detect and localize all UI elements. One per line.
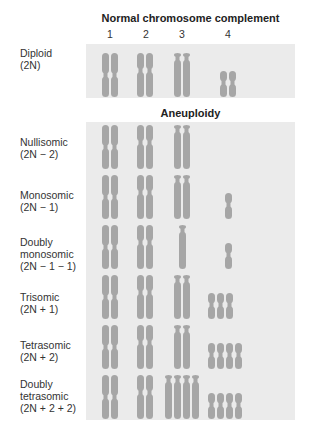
chromosome-icon xyxy=(111,53,118,97)
normal-complement-title: Normal chromosome complement xyxy=(86,12,295,24)
chromosome-icon xyxy=(174,125,181,169)
chromosome-icon xyxy=(217,293,224,319)
chromosome-icon xyxy=(111,225,118,269)
chromosome-icon xyxy=(137,275,144,319)
row-label-diploid: Diploid (2N) xyxy=(20,47,52,71)
chromosome-icon xyxy=(102,175,109,219)
chromosome-icon xyxy=(235,393,242,419)
chromosome-icon xyxy=(226,343,233,369)
chromosome-icon xyxy=(220,71,227,97)
row-label-monosomic: Monosomic (2N − 1) xyxy=(20,189,74,213)
chromosome-icon xyxy=(174,53,181,97)
karyotype-row-tetrasomic xyxy=(86,324,295,370)
chromosome-icon xyxy=(137,375,144,419)
chromosome-icon xyxy=(146,53,153,97)
karyotype-row-trisomic xyxy=(86,274,295,320)
chromosome-icon xyxy=(111,275,118,319)
diploid-panel xyxy=(86,44,295,98)
column-label-2: 2 xyxy=(136,28,156,40)
chromosome-icon xyxy=(137,125,144,169)
chromosome-icon xyxy=(174,175,181,219)
chromosome-icon xyxy=(183,375,190,419)
chromosome-icon xyxy=(102,375,109,419)
chromosome-icon xyxy=(192,375,199,419)
column-label-3: 3 xyxy=(172,28,192,40)
chromosome-icon xyxy=(229,71,236,97)
chromosome-icon xyxy=(137,53,144,97)
chromosome-icon xyxy=(146,225,153,269)
aneuploidy-panel xyxy=(86,122,295,420)
chromosome-icon xyxy=(174,375,181,419)
chromosome-icon xyxy=(146,175,153,219)
chromosome-icon xyxy=(102,325,109,369)
chromosome-icon xyxy=(208,293,215,319)
chromosome-icon xyxy=(137,175,144,219)
chromosome-icon xyxy=(226,393,233,419)
chromosome-icon xyxy=(183,125,190,169)
chromosome-icon xyxy=(111,375,118,419)
row-label-nullisomic: Nullisomic (2N − 2) xyxy=(20,136,68,160)
aneuploidy-title: Aneuploidy xyxy=(86,107,295,119)
column-label-4: 4 xyxy=(218,28,238,40)
chromosome-icon xyxy=(111,125,118,169)
chromosome-icon xyxy=(111,175,118,219)
row-label-doubly-monosomic: Doubly monosomic (2N − 1 − 1) xyxy=(20,236,76,272)
row-label-trisomic: Trisomic (2N + 1) xyxy=(20,291,59,315)
chromosome-icon xyxy=(102,225,109,269)
chromosome-icon xyxy=(111,325,118,369)
chromosome-icon xyxy=(137,325,144,369)
chromosome-icon xyxy=(165,375,172,419)
chromosome-icon xyxy=(146,275,153,319)
chromosome-icon xyxy=(208,393,215,419)
chromosome-icon xyxy=(217,393,224,419)
chromosome-icon xyxy=(183,325,190,369)
chromosome-icon xyxy=(137,225,144,269)
row-label-tetrasomic: Tetrasomic (2N + 2) xyxy=(20,339,71,363)
karyotype-row-doubly-tetrasomic xyxy=(86,374,295,420)
row-label-doubly-tetrasomic: Doubly tetrasomic (2N + 2 + 2) xyxy=(20,378,76,414)
chromosome-icon xyxy=(235,343,242,369)
chromosome-icon xyxy=(174,325,181,369)
chromosome-icon xyxy=(183,53,190,97)
chromosome-icon xyxy=(174,275,181,319)
chromosome-icon xyxy=(225,193,232,219)
chromosome-icon xyxy=(183,175,190,219)
chromosome-icon xyxy=(102,53,109,97)
chromosome-icon xyxy=(146,125,153,169)
chromosome-icon xyxy=(217,343,224,369)
chromosome-icon xyxy=(146,375,153,419)
chromosome-icon xyxy=(226,293,233,319)
chromosome-icon xyxy=(179,225,186,269)
karyotype-row-diploid xyxy=(86,44,295,98)
chromosome-icon xyxy=(102,275,109,319)
chromosome-icon xyxy=(183,275,190,319)
column-label-1: 1 xyxy=(100,28,120,40)
chromosome-icon xyxy=(146,325,153,369)
karyotype-row-monosomic xyxy=(86,174,295,220)
chromosome-icon xyxy=(225,243,232,269)
karyotype-row-nullisomic xyxy=(86,124,295,170)
chromosome-icon xyxy=(208,343,215,369)
chromosome-icon xyxy=(102,125,109,169)
karyotype-row-doubly-monosomic xyxy=(86,224,295,270)
